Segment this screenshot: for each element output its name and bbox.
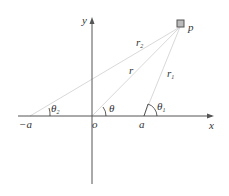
theta-label: θ — [109, 102, 115, 114]
origin-label: o — [92, 118, 98, 130]
angle-theta2-arc — [49, 108, 50, 116]
angle-theta1-arc — [148, 104, 157, 116]
a-label: a — [139, 118, 145, 130]
x-axis-label: x — [208, 119, 214, 131]
neg-a-label: −a — [19, 118, 32, 130]
point-p-label: p — [187, 21, 194, 33]
x-axis — [18, 114, 214, 119]
polar-coordinates-diagram: p y x o −a a r2 r r1 θ2 θ θ1 — [0, 0, 229, 196]
r-label: r — [129, 64, 134, 76]
y-axis — [90, 17, 95, 184]
r1-label: r1 — [167, 67, 174, 80]
r2-label: r2 — [136, 36, 143, 49]
x-axis-arrow-icon — [207, 114, 214, 119]
y-axis-arrow-icon — [90, 17, 95, 24]
theta1-label: θ1 — [157, 100, 165, 113]
point-p-marker — [177, 20, 184, 27]
y-axis-label: y — [81, 14, 87, 26]
angle-theta-arc — [103, 107, 106, 116]
theta2-label: θ2 — [51, 102, 59, 115]
